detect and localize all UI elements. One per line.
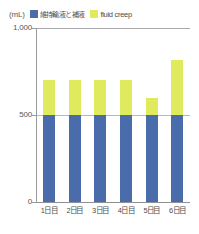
bar-segment-fluid-creep [43, 80, 55, 115]
y-tick-label-1000: 1,000 [2, 23, 32, 32]
x-axis-label: 4日目 [113, 204, 139, 215]
bar-segment-maintenance-fluid [43, 115, 55, 202]
axis-line-x [36, 202, 190, 203]
bar-segment-maintenance-fluid [69, 115, 81, 202]
stacked-bar-chart: (mL) 維持輸液と補液 fluid creep 1,000 500 0 [0, 0, 199, 234]
y-tick-500: 500 [0, 110, 32, 120]
bar-group [94, 28, 106, 202]
bar-segment-maintenance-fluid [120, 115, 132, 202]
bar-segment-maintenance-fluid [94, 115, 106, 202]
bar-segment-fluid-creep [69, 80, 81, 115]
x-axis-labels: 1日目2日目3日目4日目5日目6日目 [36, 204, 190, 218]
x-axis-label: 2日目 [62, 204, 88, 215]
x-axis-label: 6日目 [164, 204, 190, 215]
x-axis-label: 5日目 [139, 204, 165, 215]
y-tick-label-0: 0 [2, 197, 32, 206]
plot-wrapper: 1,000 500 0 1日目2日目3日目4日目5日目6日目 [0, 0, 199, 234]
y-tick-1000: 1,000 [0, 23, 32, 33]
bar-segment-maintenance-fluid [171, 115, 183, 202]
bar-group [146, 28, 158, 202]
bar-segment-maintenance-fluid [146, 115, 158, 202]
y-tick-label-500: 500 [2, 110, 32, 119]
bar-segment-fluid-creep [171, 60, 183, 115]
y-tick-0: 0 [0, 197, 32, 207]
y-tick-mark-0 [32, 202, 36, 203]
bar-group [120, 28, 132, 202]
bar-group [171, 28, 183, 202]
bar-segment-fluid-creep [94, 80, 106, 115]
bar-group [69, 28, 81, 202]
bar-segment-fluid-creep [120, 80, 132, 115]
x-axis-label: 1日目 [36, 204, 62, 215]
bars-layer [36, 28, 190, 202]
bar-segment-fluid-creep [146, 98, 158, 115]
bar-group [43, 28, 55, 202]
x-axis-label: 3日目 [87, 204, 113, 215]
